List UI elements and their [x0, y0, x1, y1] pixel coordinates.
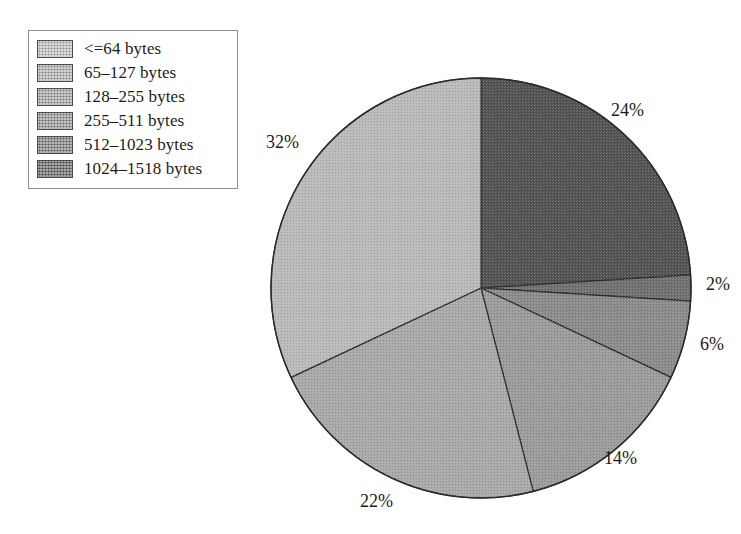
pie-value-label-0: 24% — [611, 100, 644, 120]
legend-swatch-icon-4 — [37, 136, 73, 154]
legend-swatch-icon-1 — [37, 64, 73, 82]
pie-value-label-3: 14% — [604, 448, 637, 468]
legend-label-4: 512–1023 bytes — [84, 135, 194, 155]
legend-swatch-icon-5 — [37, 160, 73, 178]
legend-item-4[interactable]: 512–1023 bytes — [37, 133, 230, 157]
legend-swatch-icon-3 — [37, 112, 73, 130]
legend-label-0: <=64 bytes — [84, 39, 161, 59]
legend-item-3[interactable]: 255–511 bytes — [37, 109, 230, 133]
pie-value-label-1: 2% — [706, 274, 730, 294]
pie-value-label-2: 6% — [700, 334, 724, 354]
pie-chart-figure: 24%2%6%14%22%32% <=64 bytes 65–127 bytes… — [0, 0, 741, 534]
legend-swatch-icon-2 — [37, 88, 73, 106]
legend-label-3: 255–511 bytes — [84, 111, 184, 131]
legend-label-2: 128–255 bytes — [84, 87, 185, 107]
legend-swatch-icon-0 — [37, 40, 73, 58]
pie-value-label-5: 32% — [266, 132, 299, 152]
pie-value-label-4: 22% — [360, 491, 393, 511]
legend-label-5: 1024–1518 bytes — [84, 159, 202, 179]
legend-item-1[interactable]: 65–127 bytes — [37, 61, 230, 85]
legend-item-2[interactable]: 128–255 bytes — [37, 85, 230, 109]
legend-item-5[interactable]: 1024–1518 bytes — [37, 157, 230, 181]
legend-item-0[interactable]: <=64 bytes — [37, 37, 230, 61]
legend: <=64 bytes 65–127 bytes 128–255 bytes 25… — [28, 30, 238, 189]
legend-label-1: 65–127 bytes — [84, 63, 176, 83]
